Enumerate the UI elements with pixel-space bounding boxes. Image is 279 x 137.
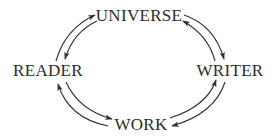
arrow-universe-to-writer bbox=[184, 15, 224, 59]
arrow-work-to-writer bbox=[170, 80, 216, 118]
arrow-reader-to-work bbox=[66, 82, 112, 119]
arrow-universe-to-reader bbox=[65, 21, 97, 59]
node-universe: UNIVERSE bbox=[96, 6, 182, 25]
arrow-writer-to-universe bbox=[183, 21, 215, 61]
literary-cycle-diagram: UNIVERSE READER WRITER WORK bbox=[0, 0, 279, 137]
node-work: WORK bbox=[114, 115, 168, 134]
node-writer: WRITER bbox=[197, 61, 264, 80]
node-reader: READER bbox=[13, 61, 83, 80]
